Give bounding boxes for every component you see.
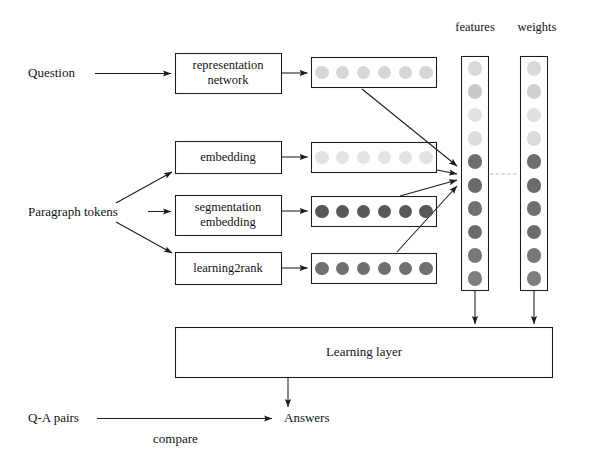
- column-dot-weights-4: [527, 154, 542, 169]
- diagram-canvas: Question Paragraph tokens Q-A pairs repr…: [0, 0, 591, 463]
- column-dot-features-6: [468, 201, 483, 216]
- circle-layer: [0, 0, 591, 463]
- token-dot-question-tokens-3: [378, 66, 391, 79]
- column-dot-weights-9: [527, 271, 542, 286]
- token-dot-question-tokens-5: [419, 66, 432, 79]
- column-dot-weights-6: [527, 201, 542, 216]
- column-dot-weights-2: [527, 108, 542, 123]
- token-dot-segmentation-tokens-3: [378, 205, 391, 218]
- column-dot-features-8: [468, 248, 483, 263]
- token-dot-learning2rank-tokens-0: [315, 262, 328, 275]
- token-dot-learning2rank-tokens-1: [336, 262, 349, 275]
- token-dot-embedding-tokens-4: [399, 151, 412, 164]
- token-dot-question-tokens-2: [357, 66, 370, 79]
- token-dot-embedding-tokens-3: [378, 151, 391, 164]
- column-dot-weights-5: [527, 178, 542, 193]
- column-dot-features-2: [468, 108, 483, 123]
- token-dot-segmentation-tokens-4: [399, 205, 412, 218]
- token-dot-embedding-tokens-0: [315, 151, 328, 164]
- token-dot-learning2rank-tokens-2: [357, 262, 370, 275]
- token-dot-segmentation-tokens-5: [419, 205, 432, 218]
- token-dot-question-tokens-4: [399, 66, 412, 79]
- token-dot-embedding-tokens-2: [357, 151, 370, 164]
- column-dot-weights-7: [527, 225, 542, 240]
- column-dot-weights-3: [527, 131, 542, 146]
- column-dot-features-1: [468, 84, 483, 99]
- token-dot-embedding-tokens-1: [336, 151, 349, 164]
- column-dot-features-9: [468, 271, 483, 286]
- token-dot-segmentation-tokens-2: [357, 205, 370, 218]
- column-dot-weights-8: [527, 248, 542, 263]
- column-dot-weights-0: [527, 61, 542, 76]
- column-dot-features-3: [468, 131, 483, 146]
- token-dot-segmentation-tokens-1: [336, 205, 349, 218]
- column-dot-features-4: [468, 154, 483, 169]
- column-dot-features-5: [468, 178, 483, 193]
- column-dot-features-7: [468, 225, 483, 240]
- token-dot-segmentation-tokens-0: [315, 205, 328, 218]
- token-dot-embedding-tokens-5: [419, 151, 432, 164]
- token-dot-question-tokens-1: [336, 66, 349, 79]
- token-dot-learning2rank-tokens-4: [399, 262, 412, 275]
- column-dot-features-0: [468, 61, 483, 76]
- token-dot-learning2rank-tokens-5: [419, 262, 432, 275]
- token-dot-learning2rank-tokens-3: [378, 262, 391, 275]
- token-dot-question-tokens-0: [315, 66, 328, 79]
- column-dot-weights-1: [527, 84, 542, 99]
